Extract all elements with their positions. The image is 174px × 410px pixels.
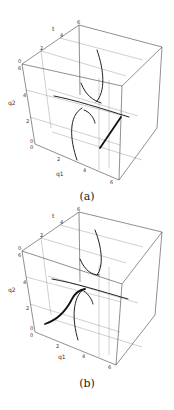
svg-text:4: 4 — [60, 32, 63, 38]
trajectory-a — [100, 117, 121, 148]
svg-text:t: t — [52, 25, 55, 32]
svg-text:4: 4 — [23, 279, 26, 285]
svg-text:4: 4 — [83, 167, 86, 173]
svg-text:t: t — [52, 212, 55, 219]
tick-labels-q1: 0 2 4 6 q1 — [30, 144, 113, 185]
caption-b: (b) — [0, 377, 174, 390]
figure-b: 0 2 4 6 t 6 4 2 0 q2 0 2 4 6 q1 — [0, 187, 174, 377]
svg-text:0: 0 — [30, 144, 33, 150]
svg-text:6: 6 — [18, 65, 21, 71]
plot-3d-b: 0 2 4 6 t 6 4 2 0 q2 0 2 4 6 q1 — [0, 187, 174, 377]
svg-text:6: 6 — [108, 364, 111, 370]
svg-text:0: 0 — [18, 58, 21, 64]
svg-text:6: 6 — [77, 19, 80, 25]
svg-text:2: 2 — [57, 156, 60, 162]
svg-text:0: 0 — [30, 325, 33, 331]
svg-text:2: 2 — [26, 118, 29, 124]
curves — [45, 230, 128, 340]
svg-text:4: 4 — [60, 219, 63, 225]
tick-labels-t: 0 2 4 6 t — [18, 19, 80, 64]
tick-labels-q2: 6 4 2 0 q2 — [8, 65, 33, 144]
svg-text:6: 6 — [18, 252, 21, 258]
svg-text:6: 6 — [77, 206, 80, 212]
plot-3d-a: 0 2 4 6 t 6 4 2 0 q2 0 2 4 6 q1 — [0, 0, 174, 190]
svg-text:2: 2 — [26, 305, 29, 311]
svg-text:q2: q2 — [8, 286, 16, 294]
svg-text:2: 2 — [40, 45, 43, 51]
svg-text:4: 4 — [23, 92, 26, 98]
svg-text:2: 2 — [40, 232, 43, 238]
svg-text:q1: q1 — [58, 353, 66, 361]
svg-text:0: 0 — [30, 332, 33, 338]
svg-text:q1: q1 — [56, 170, 64, 178]
svg-text:4: 4 — [82, 353, 85, 359]
curves — [54, 50, 129, 160]
svg-text:0: 0 — [18, 245, 21, 251]
figure-a: 0 2 4 6 t 6 4 2 0 q2 0 2 4 6 q1 — [0, 0, 174, 190]
tick-labels-q2: 6 4 2 0 q2 — [8, 252, 33, 331]
tick-labels-t: 0 2 4 6 t — [18, 206, 80, 251]
svg-text:2: 2 — [56, 343, 59, 349]
svg-text:q2: q2 — [8, 99, 16, 107]
svg-text:6: 6 — [110, 179, 113, 185]
